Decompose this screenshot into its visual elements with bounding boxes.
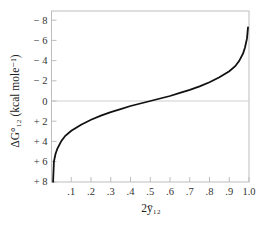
x-tick-label: .1 bbox=[67, 186, 75, 197]
x-tick-label: .9 bbox=[225, 186, 233, 197]
y-axis-title: ΔG°₁₂ (kcal mole⁻¹) bbox=[9, 54, 22, 148]
x-tick-label: .7 bbox=[186, 186, 194, 197]
x-tick-label: .5 bbox=[146, 186, 154, 197]
y-tick-label: + 8 bbox=[34, 176, 48, 187]
x-tick-label: .6 bbox=[166, 186, 174, 197]
y-tick-label: − 4 bbox=[34, 55, 49, 66]
plot-area: − 8− 6− 4− 20+ 2+ 4+ 6+ 8 .1.2.3.4.5.6.7… bbox=[34, 11, 256, 197]
y-tick-label: − 2 bbox=[34, 75, 48, 86]
x-axis-ticks: .1.2.3.4.5.6.7.8.91.0 bbox=[67, 177, 255, 197]
y-tick-label: + 2 bbox=[34, 116, 48, 127]
x-tick-label: .3 bbox=[107, 186, 115, 197]
x-axis-title: 2ȳ₁₂ bbox=[141, 202, 161, 215]
chart: − 8− 6− 4− 20+ 2+ 4+ 6+ 8 .1.2.3.4.5.6.7… bbox=[0, 0, 267, 226]
x-tick-label: 1.0 bbox=[242, 186, 255, 197]
y-tick-label: − 6 bbox=[34, 35, 48, 46]
y-tick-label: − 8 bbox=[34, 15, 48, 26]
x-tick-label: .4 bbox=[127, 186, 136, 197]
x-tick-label: .2 bbox=[87, 186, 95, 197]
y-tick-label: + 6 bbox=[34, 156, 48, 167]
plot-frame bbox=[52, 11, 250, 182]
y-tick-label: + 4 bbox=[34, 136, 49, 147]
data-curve bbox=[53, 27, 248, 182]
x-tick-label: .8 bbox=[206, 186, 214, 197]
y-tick-label: 0 bbox=[42, 96, 47, 107]
